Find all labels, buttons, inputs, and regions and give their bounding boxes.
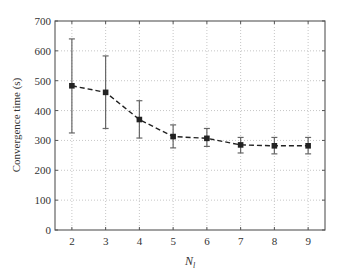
y-tick-label: 200 <box>35 164 52 176</box>
data-point-marker <box>238 142 244 148</box>
axes <box>55 21 325 230</box>
x-tick-label: 5 <box>170 235 176 247</box>
x-tick-label: 2 <box>69 235 75 247</box>
plot-frame <box>55 21 325 230</box>
data-series <box>69 39 311 154</box>
chart-svg: 010020030040050060070023456789 Convergen… <box>0 0 343 275</box>
x-tick-label: 8 <box>272 235 278 247</box>
data-point-marker <box>305 143 311 149</box>
x-tick-label: 3 <box>103 235 109 247</box>
data-point-marker <box>170 134 176 140</box>
data-point-marker <box>103 90 109 96</box>
data-point-marker <box>69 83 75 89</box>
x-tick-label: 9 <box>305 235 311 247</box>
grid-lines <box>55 21 325 230</box>
y-tick-label: 0 <box>46 224 52 236</box>
y-tick-label: 100 <box>35 194 52 206</box>
x-axis-label: Nl <box>184 254 196 270</box>
y-tick-label: 300 <box>35 134 52 146</box>
x-tick-label: 4 <box>137 235 143 247</box>
y-tick-label: 400 <box>35 105 52 117</box>
data-point-marker <box>272 143 278 149</box>
x-axis-label-subscript: l <box>193 261 196 270</box>
data-point-marker <box>137 117 143 123</box>
x-tick-label: 6 <box>204 235 210 247</box>
chart: 010020030040050060070023456789 Convergen… <box>0 0 343 275</box>
data-point-marker <box>204 136 210 142</box>
y-tick-label: 600 <box>35 45 52 57</box>
y-axis-label: Convergence time (s) <box>10 77 23 172</box>
y-tick-label: 700 <box>35 15 52 27</box>
y-tick-label: 500 <box>35 75 52 87</box>
x-tick-label: 7 <box>238 235 244 247</box>
